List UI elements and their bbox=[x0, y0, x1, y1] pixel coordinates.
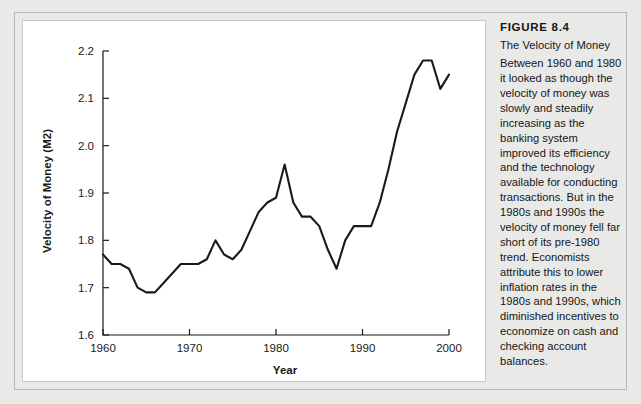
figure-body-text: Between 1960 and 1980 it looked as thoug… bbox=[500, 56, 622, 369]
x-tick-label: 2000 bbox=[436, 342, 462, 354]
y-tick-label: 2.1 bbox=[78, 92, 94, 104]
velocity-of-money-line-chart: 1.61.71.81.92.02.12.2 196019701980199020… bbox=[23, 21, 487, 383]
series-group bbox=[103, 60, 449, 292]
y-tick-label: 1.9 bbox=[78, 187, 94, 199]
series-line bbox=[103, 60, 449, 292]
x-tick-label: 1990 bbox=[350, 342, 376, 354]
figure-subtitle: The Velocity of Money bbox=[500, 38, 622, 53]
y-tick-label: 1.7 bbox=[78, 282, 94, 294]
x-axis-title: Year bbox=[273, 364, 298, 376]
chart-area: 1.61.71.81.92.02.12.2 196019701980199020… bbox=[23, 21, 487, 383]
y-tick-label: 1.8 bbox=[78, 234, 94, 246]
figure-root: 1.61.71.81.92.02.12.2 196019701980199020… bbox=[0, 0, 641, 404]
y-axis-title: Velocity of Money (M2) bbox=[41, 129, 53, 253]
figure-number-label: FIGURE 8.4 bbox=[500, 20, 622, 34]
figure-caption: FIGURE 8.4 The Velocity of Money Between… bbox=[500, 20, 622, 382]
y-tick-label: 2.0 bbox=[78, 140, 94, 152]
x-tick-label: 1960 bbox=[90, 342, 116, 354]
x-tick-label: 1980 bbox=[263, 342, 289, 354]
y-axis-ticks: 1.61.71.81.92.02.12.2 bbox=[78, 45, 109, 341]
chart-panel: 1.61.71.81.92.02.12.2 196019701980199020… bbox=[22, 20, 486, 382]
x-tick-label: 1970 bbox=[177, 342, 203, 354]
y-tick-label: 1.6 bbox=[78, 329, 94, 341]
y-tick-label: 2.2 bbox=[78, 45, 94, 57]
x-axis-ticks: 19601970198019902000 bbox=[90, 329, 462, 354]
